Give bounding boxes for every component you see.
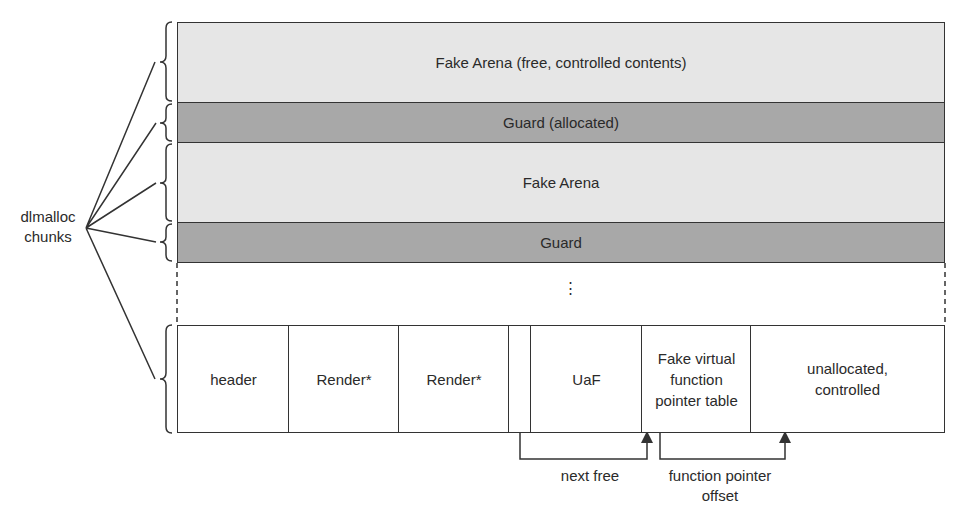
- side-label: dlmalloc chunks: [10, 207, 86, 247]
- ellipsis: ⋮: [555, 278, 585, 298]
- cell-label: header: [210, 369, 257, 390]
- cell-label: Render*: [426, 369, 481, 390]
- cell-label: UaF: [572, 369, 600, 390]
- guard-allocated-row: Guard (allocated): [177, 102, 945, 143]
- guard-row: Guard: [177, 222, 945, 263]
- cell-fake-vtable: Fake virtual function pointer table: [641, 325, 752, 433]
- cell-gap: [508, 325, 532, 433]
- cell-label: Fake virtual function pointer table: [646, 348, 747, 411]
- side-label-line1: dlmalloc: [10, 207, 86, 227]
- cell-label: unallocated, controlled: [801, 358, 894, 400]
- function-pointer-offset-label: function pointer offset: [655, 466, 785, 506]
- cell-unallocated: unallocated, controlled: [750, 325, 945, 433]
- row-label: Fake Arena: [523, 174, 600, 191]
- row-label: Guard: [540, 234, 582, 251]
- row-label: Fake Arena (free, controlled contents): [436, 54, 687, 71]
- fake-arena-row: Fake Arena: [177, 142, 945, 223]
- cell-label: Render*: [316, 369, 371, 390]
- cell-header: header: [177, 325, 290, 433]
- cell-uaf: UaF: [530, 325, 643, 433]
- cell-render-2: Render*: [398, 325, 510, 433]
- cell-render-1: Render*: [288, 325, 400, 433]
- side-label-line2: chunks: [10, 227, 86, 247]
- fake-arena-free-row: Fake Arena (free, controlled contents): [177, 22, 945, 103]
- next-free-label: next free: [540, 466, 640, 486]
- row-label: Guard (allocated): [503, 114, 619, 131]
